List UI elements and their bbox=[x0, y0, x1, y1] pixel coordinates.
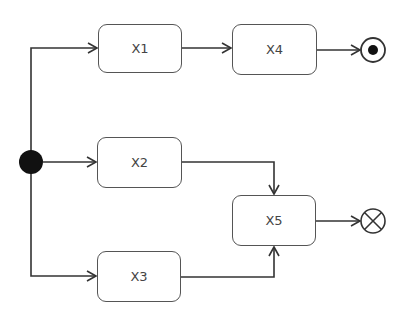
activity-x4: X4 bbox=[232, 24, 317, 75]
diagram-canvas bbox=[0, 0, 397, 314]
activity-label: X5 bbox=[265, 213, 282, 228]
activity-label: X2 bbox=[131, 155, 148, 170]
edge-x2-x5 bbox=[182, 162, 274, 194]
activity-final-icon bbox=[361, 38, 385, 62]
initial-node-icon bbox=[19, 150, 43, 174]
activity-x5: X5 bbox=[232, 195, 316, 246]
flow-final-icon bbox=[361, 209, 385, 233]
activity-x2: X2 bbox=[97, 137, 182, 188]
activity-label: X3 bbox=[130, 269, 147, 284]
activity-label: X4 bbox=[266, 42, 283, 57]
edge-start-x3 bbox=[31, 162, 96, 276]
edge-x3-x5 bbox=[181, 247, 274, 277]
activity-label: X1 bbox=[131, 41, 148, 56]
activity-x1: X1 bbox=[98, 24, 182, 73]
edge-start-x1 bbox=[31, 48, 97, 162]
activity-x3: X3 bbox=[97, 251, 181, 302]
